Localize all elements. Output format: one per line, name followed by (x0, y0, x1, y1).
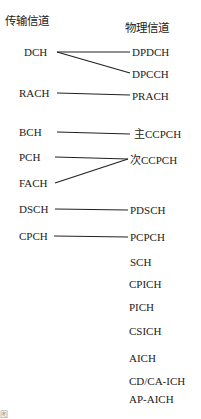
transport-dsch: DSCH (19, 203, 48, 215)
figure-caption: 图 (0, 408, 8, 419)
line-rach-prach (57, 93, 130, 95)
line-dsch-pdsch (55, 209, 128, 210)
physical-secondary-ccpch: 次CCPCH (130, 154, 177, 166)
physical-ap-aich: AP-AICH (129, 393, 174, 405)
line-dch-dpcch (57, 52, 130, 73)
physical-cpich: CPICH (129, 278, 161, 290)
physical-prach: PRACH (132, 90, 169, 102)
transport-pch: PCH (19, 151, 40, 163)
physical-dpdch: DPDCH (132, 46, 169, 58)
physical-pich: PICH (129, 301, 154, 313)
transport-bch: BCH (19, 126, 42, 138)
transport-dch: DCH (24, 46, 47, 58)
line-cpch-pcpch (54, 236, 128, 237)
transport-fach: FACH (19, 177, 48, 189)
line-bch-ccpch1 (57, 132, 130, 134)
transport-rach: RACH (19, 87, 50, 99)
physical-pcpch: PCPCH (130, 231, 165, 243)
physical-pdsch: PDSCH (130, 204, 165, 216)
physical-aich: AICH (129, 352, 156, 364)
line-fach-ccpch2 (55, 159, 128, 183)
physical-dpcch: DPCCH (132, 68, 169, 80)
line-pch-ccpch2 (55, 157, 128, 159)
physical-cd-ca-ich: CD/CA-ICH (129, 375, 185, 387)
physical-primary-ccpch: 主CCPCH (134, 128, 181, 140)
physical-csich: CSICH (129, 325, 161, 337)
transport-cpch: CPCH (19, 230, 48, 242)
physical-sch: SCH (130, 256, 151, 268)
